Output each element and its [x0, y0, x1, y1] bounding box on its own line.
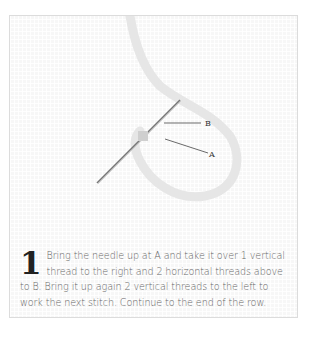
label-b: B [205, 119, 211, 128]
stitch-illustration: B A [10, 16, 299, 241]
thread-icon [130, 16, 237, 197]
pointer-a [165, 139, 208, 153]
step-text: Bring the needle up at A and take it ove… [20, 250, 285, 308]
instruction-panel: B A 1 Bring the needle up at A and take … [9, 15, 298, 318]
needle-icon [97, 100, 180, 183]
label-a: A [208, 150, 215, 159]
stitch-mark [138, 131, 148, 141]
step-caption: 1 Bring the needle up at A and take it o… [20, 248, 292, 310]
step-number: 1 [20, 250, 41, 276]
